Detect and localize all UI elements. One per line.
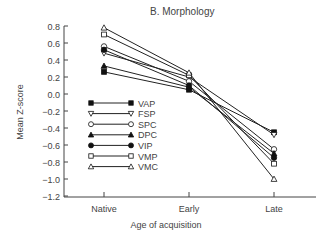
square-open-marker-icon <box>129 154 133 158</box>
square-open-marker-icon <box>272 161 277 166</box>
square-open-marker-icon <box>102 32 107 37</box>
circle-open-marker-icon <box>89 122 94 127</box>
circle-open-marker-icon <box>129 122 134 127</box>
legend-label: VMC <box>138 162 159 172</box>
y-tick-label: −0.2 <box>42 107 60 117</box>
x-tick-label: Early <box>179 204 200 214</box>
legend-item-vap: VAP <box>89 99 156 109</box>
y-tick-label: 0.4 <box>47 56 60 66</box>
x-tick-label: Late <box>265 204 283 214</box>
legend-item-vip: VIP <box>89 141 153 151</box>
square-filled-marker-icon <box>102 70 107 75</box>
line-chart: B. Morphology Mean Z-score Age of acquis… <box>0 0 336 239</box>
y-tick-label: −1.0 <box>42 175 60 185</box>
legend-item-dpc: DPC <box>88 130 157 140</box>
square-filled-marker-icon <box>89 101 93 105</box>
legend-item-fsp: FSP <box>88 109 155 119</box>
axes: 0.80.60.40.20.0−0.2−0.4−0.6−0.8−1.0−1.2N… <box>42 22 316 215</box>
x-tick-label: Native <box>91 204 117 214</box>
legend: VAPFSPSPCDPCVIPVMPVMC <box>88 99 158 173</box>
legend-label: VMP <box>138 152 158 162</box>
legend-label: SPC <box>138 120 157 130</box>
y-tick-label: −0.4 <box>42 124 60 134</box>
circle-filled-marker-icon <box>271 155 276 160</box>
y-tick-label: 0.8 <box>47 22 60 32</box>
y-tick-label: 0.6 <box>47 39 60 49</box>
legend-item-spc: SPC <box>89 120 158 130</box>
series-vmp <box>102 32 277 166</box>
legend-item-vmc: VMC <box>88 162 158 172</box>
chart-title: B. Morphology <box>150 6 214 17</box>
legend-label: VAP <box>138 99 155 109</box>
circle-filled-marker-icon <box>186 83 191 88</box>
y-tick-label: 0.2 <box>47 73 60 83</box>
legend-label: DPC <box>138 130 158 140</box>
legend-label: VIP <box>138 141 153 151</box>
y-tick-label: 0.0 <box>47 90 60 100</box>
x-axis-label: Age of acquisition <box>130 220 201 230</box>
circle-filled-marker-icon <box>101 47 106 52</box>
circle-filled-marker-icon <box>89 143 94 148</box>
y-tick-label: −0.6 <box>42 141 60 151</box>
square-filled-marker-icon <box>129 101 133 105</box>
y-tick-label: −1.2 <box>42 192 60 202</box>
triangle-up-open-marker-icon <box>101 25 107 30</box>
legend-item-vmp: VMP <box>89 152 158 162</box>
series-vip <box>101 47 276 160</box>
y-axis-label: Mean Z-score <box>15 84 25 140</box>
legend-label: FSP <box>138 109 156 119</box>
circle-filled-marker-icon <box>129 143 134 148</box>
triangle-up-open-marker-icon <box>186 70 192 75</box>
y-tick-label: −0.8 <box>42 158 60 168</box>
triangle-up-filled-marker-icon <box>101 63 107 68</box>
square-open-marker-icon <box>89 154 93 158</box>
